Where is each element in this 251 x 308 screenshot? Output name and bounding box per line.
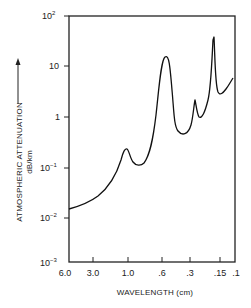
x-axis-title: WAVELENGTH (cm): [117, 288, 193, 297]
svg-text:10−2: 10−2: [40, 212, 58, 223]
y-axis-title: ATMOSPHERIC ATTENUATION: [15, 102, 24, 222]
y-axis-tick-labels: 102 10 1 10−1 10−2 10−3: [40, 10, 60, 268]
svg-text:.15: .15: [214, 268, 227, 278]
svg-text:3.0: 3.0: [87, 268, 100, 278]
attenuation-chart: 102 10 1 10−1 10−2 10−3 6.0 3.0 1.0 .6 .…: [0, 0, 251, 308]
svg-text:10−1: 10−1: [40, 162, 58, 173]
svg-text:.3: .3: [186, 268, 194, 278]
up-arrow-icon: [16, 58, 21, 104]
svg-text:10: 10: [49, 61, 59, 71]
svg-text:1: 1: [55, 112, 60, 122]
svg-text:.1: .1: [232, 268, 240, 278]
svg-text:102: 102: [42, 10, 56, 21]
x-axis-ticks: [93, 257, 220, 262]
x-axis-tick-labels: 6.0 3.0 1.0 .6 .3 .15 .1: [59, 268, 240, 278]
y-axis-title-group: ATMOSPHERIC ATTENUATION dB/km: [15, 102, 34, 222]
y-axis-units: dB/km: [25, 150, 34, 174]
svg-text:.6: .6: [158, 268, 166, 278]
attenuation-curve: [69, 37, 233, 209]
svg-text:1.0: 1.0: [122, 268, 135, 278]
svg-text:10−3: 10−3: [40, 257, 58, 268]
svg-text:6.0: 6.0: [59, 268, 72, 278]
y-axis-ticks: [64, 16, 69, 218]
